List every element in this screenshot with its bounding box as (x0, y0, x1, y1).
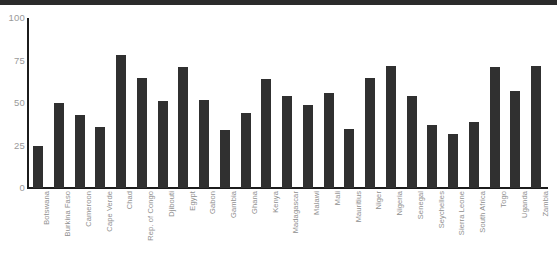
y-axis-tick-label: 25 (1, 141, 25, 150)
x-label-slot: Djibouti (154, 191, 174, 271)
x-label-slot: Seychelles (423, 191, 443, 271)
x-label-slot: Senegal (403, 191, 423, 271)
x-label-slot: Togo (486, 191, 506, 271)
bar[interactable] (137, 78, 147, 189)
plot-area (29, 18, 548, 188)
bar[interactable] (344, 129, 354, 189)
y-axis-tick-label: 50 (1, 98, 25, 107)
bar-slot (112, 18, 132, 188)
bar-slot (465, 18, 485, 188)
bar-slot (29, 18, 49, 188)
x-label-slot: Gambia (216, 191, 236, 271)
bar[interactable] (386, 66, 396, 188)
bar[interactable] (531, 66, 541, 188)
x-label-slot: Gabon (195, 191, 215, 271)
x-label-slot: Ghana (237, 191, 257, 271)
bar-slot (216, 18, 236, 188)
bar[interactable] (490, 67, 500, 188)
bar[interactable] (178, 67, 188, 188)
bar-slot (195, 18, 215, 188)
bar-slot (320, 18, 340, 188)
x-label-slot: Nigeria (382, 191, 402, 271)
bar[interactable] (407, 96, 417, 188)
bar-slot (71, 18, 91, 188)
bar-slot (340, 18, 360, 188)
bar-slot (50, 18, 70, 188)
bar[interactable] (365, 78, 375, 189)
x-label-slot: Mauritius (340, 191, 360, 271)
x-axis-category-label: Zambia (542, 191, 550, 217)
bar[interactable] (324, 93, 334, 188)
bar[interactable] (33, 146, 43, 189)
bar-slot (299, 18, 319, 188)
x-label-slot: Cape Verde (91, 191, 111, 271)
bar[interactable] (241, 113, 251, 188)
bar[interactable] (116, 55, 126, 188)
x-label-slot: Madagascar (278, 191, 298, 271)
bar-slot (403, 18, 423, 188)
bar[interactable] (448, 134, 458, 188)
x-label-slot: Burkina Faso (50, 191, 70, 271)
bar[interactable] (469, 122, 479, 188)
bar-slot (423, 18, 443, 188)
bar[interactable] (95, 127, 105, 188)
bar-slot (154, 18, 174, 188)
bar-slot (486, 18, 506, 188)
bar-slot (278, 18, 298, 188)
x-label-slot: Chad (112, 191, 132, 271)
bar-slot (237, 18, 257, 188)
bar[interactable] (199, 100, 209, 188)
bar[interactable] (510, 91, 520, 188)
bar-slot (91, 18, 111, 188)
x-label-slot: Zambia (527, 191, 547, 271)
x-label-slot: Sierra Leone (444, 191, 464, 271)
x-label-slot: Botswana (29, 191, 49, 271)
x-label-slot: Egypt (174, 191, 194, 271)
y-axis-tick-label: 0 (1, 183, 25, 192)
x-label-slot: Kenya (257, 191, 277, 271)
y-axis-tick-label: 75 (1, 56, 25, 65)
bar-slot (506, 18, 526, 188)
x-label-slot: Rep. of Congo (133, 191, 153, 271)
x-label-slot: Niger (361, 191, 381, 271)
bar-slot (257, 18, 277, 188)
x-label-slot: Uganda (506, 191, 526, 271)
bar[interactable] (54, 103, 64, 188)
bar[interactable] (261, 79, 271, 188)
bar-slot (174, 18, 194, 188)
bar[interactable] (220, 130, 230, 188)
bar[interactable] (427, 125, 437, 188)
bar[interactable] (282, 96, 292, 188)
bar-slot (527, 18, 547, 188)
y-axis-tick-label: 100 (1, 13, 25, 22)
bar-slot (444, 18, 464, 188)
x-label-slot: Malawi (299, 191, 319, 271)
x-label-slot: Cameroon (71, 191, 91, 271)
bar-slot (361, 18, 381, 188)
y-axis-ticks: 0255075100 (0, 0, 25, 271)
x-axis-category-labels: BotswanaBurkina FasoCameroonCape VerdeCh… (29, 191, 548, 271)
bar-chart: 0255075100 BotswanaBurkina FasoCameroonC… (0, 0, 557, 271)
x-label-slot: South Africa (465, 191, 485, 271)
x-label-slot: Mali (320, 191, 340, 271)
bar-slot (382, 18, 402, 188)
bar[interactable] (75, 115, 85, 188)
bar[interactable] (158, 101, 168, 188)
bar-slot (133, 18, 153, 188)
bar[interactable] (303, 105, 313, 188)
